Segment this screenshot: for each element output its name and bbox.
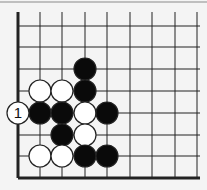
white-stone [51, 80, 73, 102]
black-stone [29, 102, 51, 124]
move-number-label: 1 [14, 104, 22, 121]
black-stone [51, 124, 73, 146]
black-stone [96, 145, 118, 167]
white-stone [74, 124, 96, 146]
black-stone [51, 102, 73, 124]
white-stone [51, 145, 73, 167]
black-stone [74, 58, 96, 80]
stones-layer [29, 58, 118, 167]
white-stone [29, 80, 51, 102]
black-stone [74, 80, 96, 102]
black-stone [74, 145, 96, 167]
black-stone [96, 102, 118, 124]
white-stone [74, 102, 96, 124]
move-marker: 1 [7, 102, 29, 124]
go-board-diagram: 1 [0, 0, 207, 190]
white-stone [29, 145, 51, 167]
